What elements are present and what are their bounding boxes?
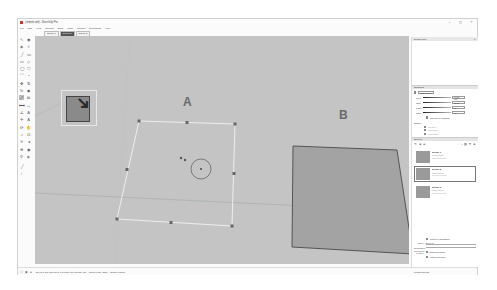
pan-tool-icon[interactable]: ✋ <box>26 125 31 130</box>
camera-location-checkbox[interactable] <box>426 251 428 253</box>
text-tool-icon[interactable]: A <box>26 110 31 115</box>
polygon-tool-icon[interactable]: ⬡ <box>26 66 31 71</box>
name-label: Name: <box>414 242 424 244</box>
zoom-window-icon[interactable]: ⊡ <box>26 132 31 137</box>
scale-tool-icon[interactable]: ⤢ <box>19 95 24 100</box>
push-pull-icon[interactable]: ⇅ <box>26 81 31 86</box>
walk-tool-icon[interactable]: ⚲ <box>19 154 24 159</box>
position-camera-icon[interactable]: ⊕ <box>19 147 24 152</box>
label-b: B <box>339 108 348 122</box>
menu-draw[interactable]: Draw <box>58 27 64 30</box>
menu-tools[interactable]: Tools <box>67 27 73 30</box>
info-icon[interactable]: ⓘ <box>20 270 23 274</box>
rotate-tool-icon[interactable]: ↻ <box>19 88 24 93</box>
scene-name-input[interactable]: Scene 2 <box>426 242 477 245</box>
hidden-geometry-checkbox[interactable] <box>426 256 428 258</box>
scene-list-item-selected[interactable]: Scene 2 Props: None (No description) <box>414 166 476 182</box>
rectangle-tool-icon[interactable]: ▭ <box>19 59 24 64</box>
properties-label: Properties to save: <box>414 250 424 254</box>
view-options-icon[interactable]: ▤ <box>464 142 467 146</box>
use-sun-checkbox[interactable] <box>426 116 428 118</box>
hidden-geometry-label: Hidden Geometry <box>429 256 445 258</box>
sketchup-window: (스케치업 파일) - SketchUp Pro – ▢ × File Edit… <box>17 18 478 275</box>
description-label: Description: <box>414 247 424 249</box>
orbit-tool-icon[interactable]: ⟳ <box>19 125 24 130</box>
look-around-icon[interactable]: ◉ <box>26 147 31 152</box>
details-icon[interactable]: ▼ <box>469 142 472 146</box>
menu-window[interactable]: Window <box>77 27 86 30</box>
zoom-extents-icon[interactable]: ✕ <box>19 139 24 144</box>
shadow-toggle[interactable] <box>414 91 416 93</box>
date-slider[interactable] <box>423 102 451 104</box>
user-icon[interactable]: ● <box>30 270 32 274</box>
dark-field[interactable]: 45 <box>452 111 465 115</box>
include-animation-checkbox[interactable] <box>426 238 428 240</box>
3d-text-icon[interactable]: A <box>26 117 31 122</box>
close-icon[interactable]: × <box>469 20 474 24</box>
scene-list-item[interactable]: Scene 1 Props: None (No description) <box>414 149 476 165</box>
update-scene-icon[interactable]: ⟲ <box>414 142 417 146</box>
arc-tool-icon[interactable]: ⌒ <box>19 73 24 78</box>
menu-edit[interactable]: Edit <box>28 27 32 30</box>
light-slider[interactable] <box>423 107 451 109</box>
from-edges-checkbox[interactable] <box>424 133 426 135</box>
sandbox-tool-icon[interactable]: ╱ <box>19 164 24 169</box>
eraser-icon[interactable]: ◊ <box>26 44 31 49</box>
rotated-rect-tool-icon[interactable]: ◇ <box>26 59 31 64</box>
measurements-label: Measurements <box>414 271 429 273</box>
minimize-icon[interactable]: – <box>447 20 452 24</box>
protractor-icon[interactable]: ∠ <box>19 110 24 115</box>
on-faces-checkbox[interactable] <box>424 126 426 128</box>
freehand-tool-icon[interactable]: 〰 <box>26 52 31 57</box>
paint-bucket-icon[interactable]: ◈ <box>19 44 24 49</box>
window-controls: – ▢ × <box>447 19 474 25</box>
time-slider[interactable] <box>423 97 451 99</box>
show-details-icon[interactable]: ⊛ <box>473 142 476 146</box>
component-tool-icon[interactable]: ◉ <box>26 37 31 42</box>
maximize-icon[interactable]: ▢ <box>458 20 463 24</box>
camera-location-label: Camera Location <box>429 251 445 253</box>
follow-me-icon[interactable]: ◆ <box>26 88 31 93</box>
pie-tool-icon[interactable]: ◔ <box>26 73 31 78</box>
time-field[interactable]: 01:30 PM <box>452 96 465 100</box>
modeling-canvas[interactable]: ➜ A B <box>35 36 409 264</box>
face-b <box>292 146 409 254</box>
tape-measure-icon[interactable]: ⟷ <box>19 103 24 108</box>
on-ground-checkbox[interactable] <box>424 129 426 131</box>
status-bar: ⓘ ◉ ● Select a grip and move it to scale… <box>18 267 477 275</box>
date-field[interactable]: 11/08 <box>452 101 465 105</box>
select-tool-icon[interactable]: ↖ <box>19 37 24 42</box>
scene-desc: (No description) <box>432 174 447 176</box>
add-scene-icon[interactable]: ⊕ <box>419 142 422 146</box>
tray-pin-icon[interactable]: ⊟ <box>474 38 476 41</box>
offset-tool-icon[interactable]: ⧉ <box>26 95 31 100</box>
menu-extensions[interactable]: Extensions <box>89 27 101 30</box>
move-down-icon[interactable]: ↓ <box>461 142 463 146</box>
geo-location-icon[interactable]: ◉ <box>25 270 28 274</box>
previous-view-icon[interactable]: ◂ <box>26 139 31 144</box>
menu-camera[interactable]: Camera <box>45 27 54 30</box>
scene-description-input[interactable] <box>426 247 477 248</box>
blue-axis-line <box>115 36 130 264</box>
scale-grips <box>116 120 237 228</box>
smoove-tool-icon[interactable]: ∕ <box>19 171 24 176</box>
dark-slider[interactable] <box>423 112 451 114</box>
light-field[interactable]: 80 <box>452 106 465 110</box>
zoom-tool-icon[interactable]: ⌕ <box>19 132 24 137</box>
shadows-panel: UTC+09:00 Time 01:30 PM Date 11/08 Light… <box>412 89 478 137</box>
menu-view[interactable]: View <box>36 27 41 30</box>
menu-help[interactable]: Help <box>105 27 110 30</box>
remove-scene-icon[interactable]: ⊖ <box>423 142 426 146</box>
move-tool-icon[interactable]: ✥ <box>19 81 24 86</box>
section-plane-icon[interactable]: ⬖ <box>26 154 31 159</box>
dimension-tool-icon[interactable]: ↔ <box>26 103 31 108</box>
utc-select[interactable]: UTC+09:00 <box>418 91 434 95</box>
menu-file[interactable]: File <box>20 27 24 30</box>
from-edges-label: From edges <box>428 133 439 135</box>
scene-list-item[interactable]: Scene 3 Props: None (No description) <box>414 184 476 200</box>
move-up-icon[interactable]: ↑ <box>458 142 460 146</box>
axes-tool-icon[interactable]: ✛ <box>19 117 24 122</box>
title-bar: (스케치업 파일) - SketchUp Pro – ▢ × <box>18 19 477 25</box>
circle-tool-icon[interactable]: ◯ <box>19 66 24 71</box>
line-tool-icon[interactable]: ╱ <box>19 52 24 57</box>
